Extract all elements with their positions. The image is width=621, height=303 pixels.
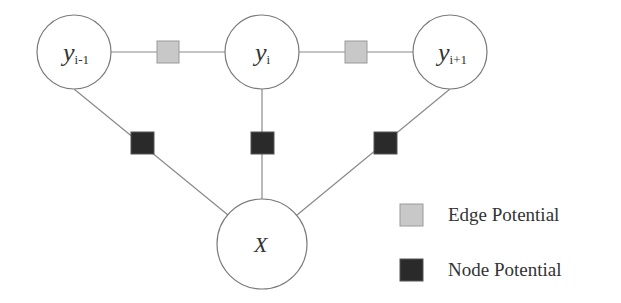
node-y-prev: yi-1 bbox=[37, 15, 111, 89]
node-y-next: yi+1 bbox=[413, 15, 487, 89]
node-y-cur: yi bbox=[225, 15, 299, 89]
node-potential-square bbox=[251, 132, 274, 154]
legend-item-node-potential: Node Potential bbox=[400, 259, 561, 281]
node-potentials bbox=[131, 132, 397, 154]
node-y-prev-subscript: i-1 bbox=[75, 52, 89, 67]
node-y-next-subscript: i+1 bbox=[450, 52, 467, 67]
node-y-prev-base: y bbox=[60, 38, 75, 67]
node-potential-square bbox=[131, 132, 154, 154]
legend: Edge Potential Node Potential bbox=[400, 204, 561, 281]
legend-label-node-potential: Node Potential bbox=[448, 259, 561, 280]
legend-item-edge-potential: Edge Potential bbox=[400, 204, 559, 226]
node-y-next-base: y bbox=[435, 38, 450, 67]
node-x: X bbox=[217, 199, 307, 289]
node-potential-square bbox=[374, 132, 397, 154]
legend-swatch-light bbox=[400, 204, 423, 226]
svg-text:X: X bbox=[253, 232, 269, 257]
node-y-cur-base: y bbox=[252, 38, 267, 67]
node-x-base: X bbox=[253, 232, 269, 257]
node-y-cur-subscript: i bbox=[267, 52, 271, 67]
legend-swatch-dark bbox=[400, 259, 423, 281]
factor-graph-diagram: yi-1 yi yi+1 X Edge Potential bbox=[0, 0, 621, 303]
edge-potential-square bbox=[157, 41, 179, 63]
legend-label-edge-potential: Edge Potential bbox=[448, 204, 559, 225]
edge-potential-square bbox=[345, 41, 367, 63]
